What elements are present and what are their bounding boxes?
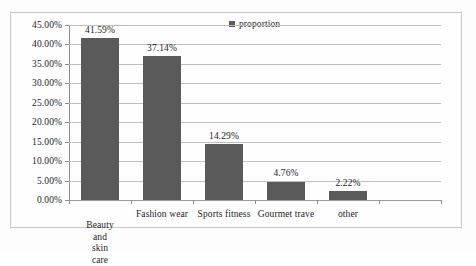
x-tick-mark bbox=[131, 200, 132, 204]
plot-area: 0.00%5.00%10.00%15.00%20.00%25.00%30.00%… bbox=[69, 25, 441, 200]
x-tick-mark bbox=[255, 200, 256, 204]
chart-frame: proportion 0.00%5.00%10.00%15.00%20.00%2… bbox=[10, 12, 462, 228]
bar-slot: 2.22%other bbox=[317, 25, 379, 200]
bar-slot bbox=[379, 25, 441, 200]
x-tick-mark bbox=[379, 200, 380, 204]
x-tick-mark bbox=[69, 200, 70, 204]
y-axis-label: 10.00% bbox=[32, 156, 62, 166]
y-axis-label: 15.00% bbox=[32, 137, 62, 147]
x-tick-mark bbox=[317, 200, 318, 204]
bar-value-label: 41.59% bbox=[85, 25, 115, 35]
y-axis-label: 45.00% bbox=[32, 20, 62, 30]
x-axis-label: Sports fitness bbox=[198, 209, 251, 221]
x-axis-label: Gourmet trave bbox=[258, 209, 314, 221]
bar[interactable] bbox=[329, 191, 367, 200]
y-axis-label: 0.00% bbox=[37, 195, 62, 205]
bar-slot: 41.59%Beauty and skin care bbox=[69, 25, 131, 200]
y-axis-label: 30.00% bbox=[32, 78, 62, 88]
bar[interactable] bbox=[205, 144, 243, 200]
y-axis-label: 5.00% bbox=[37, 176, 62, 186]
x-axis-label: Beauty and skin care bbox=[85, 220, 116, 266]
x-tick-mark bbox=[441, 200, 442, 204]
bar-value-label: 14.29% bbox=[209, 131, 239, 141]
x-tick-mark bbox=[193, 200, 194, 204]
bar[interactable] bbox=[81, 38, 119, 200]
bar-slot: 14.29%Sports fitness bbox=[193, 25, 255, 200]
bar-value-label: 37.14% bbox=[147, 43, 177, 53]
bar[interactable] bbox=[267, 182, 305, 201]
y-axis-label: 25.00% bbox=[32, 98, 62, 108]
y-axis-label: 20.00% bbox=[32, 117, 62, 127]
x-axis-label: Fashion wear bbox=[136, 209, 188, 221]
bar-value-label: 4.76% bbox=[273, 168, 298, 178]
bar-slot: 4.76%Gourmet trave bbox=[255, 25, 317, 200]
bar[interactable] bbox=[143, 56, 181, 200]
y-axis-label: 35.00% bbox=[32, 59, 62, 69]
y-axis-label: 40.00% bbox=[32, 39, 62, 49]
bar-value-label: 2.22% bbox=[335, 178, 360, 188]
bar-slot: 37.14%Fashion wear bbox=[131, 25, 193, 200]
x-axis-label: other bbox=[338, 209, 358, 221]
